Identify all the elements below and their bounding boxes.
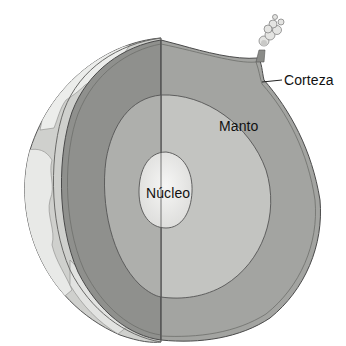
earth-layers-diagram: Corteza Manto Núcleo bbox=[0, 0, 346, 346]
earth-illustration bbox=[0, 0, 346, 346]
mantle-label: Manto bbox=[219, 119, 258, 133]
crust-label: Corteza bbox=[284, 73, 334, 87]
volcano-icon bbox=[256, 15, 284, 63]
core-label: Núcleo bbox=[146, 186, 190, 200]
